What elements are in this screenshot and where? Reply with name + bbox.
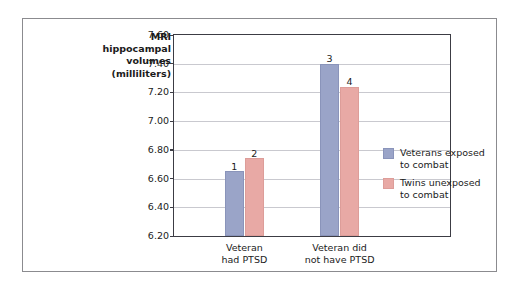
legend-item-veterans-exposed: Veterans exposed to combat — [383, 147, 501, 170]
bar-value-label: 3 — [327, 54, 333, 64]
gridline — [174, 92, 450, 93]
y-tick-label: 6.40 — [148, 203, 169, 213]
x-category-label-line: not have PTSD — [305, 254, 375, 265]
y-tick-mark — [170, 92, 174, 93]
gridline — [174, 207, 450, 208]
chart-legend: Veterans exposed to combat Twins unexpos… — [383, 147, 501, 207]
legend-label-line-2: to combat — [400, 159, 448, 170]
y-tick-label: 6.20 — [148, 231, 169, 241]
y-tick-label: 7.00 — [148, 116, 169, 126]
y-axis-title-line-4: (milliliters) — [63, 68, 171, 80]
legend-swatch-pink-icon — [383, 178, 394, 189]
y-tick-mark — [170, 121, 174, 122]
bar: 4 — [340, 87, 359, 236]
legend-label-line-2: to combat — [400, 189, 448, 200]
y-tick-mark — [170, 35, 174, 36]
x-category-label-line: Veteran — [226, 242, 263, 253]
bar-value-label: 2 — [251, 149, 257, 159]
bar: 2 — [245, 158, 264, 236]
y-axis-title-line-2: hippocampal — [63, 43, 171, 55]
bar-value-label: 4 — [347, 77, 353, 87]
y-tick-label: 7.40 — [148, 59, 169, 69]
legend-label-line-1: Twins unexposed — [400, 177, 481, 188]
legend-item-twins-unexposed: Twins unexposed to combat — [383, 177, 501, 200]
x-category-label-line: Veteran did — [312, 242, 367, 253]
y-tick-mark — [170, 236, 174, 237]
y-tick-label: 7.20 — [148, 88, 169, 98]
legend-label-veterans-exposed: Veterans exposed to combat — [400, 147, 485, 170]
x-category-label: Veteranhad PTSD — [221, 242, 267, 265]
y-tick-mark — [170, 63, 174, 64]
x-category-label-line: had PTSD — [221, 254, 267, 265]
y-tick-label: 6.60 — [148, 174, 169, 184]
y-tick-mark — [170, 207, 174, 208]
bar: 3 — [320, 64, 339, 236]
gridline — [174, 121, 450, 122]
y-tick-label: 6.80 — [148, 145, 169, 155]
x-category-label: Veteran didnot have PTSD — [305, 242, 375, 265]
bar: 1 — [225, 171, 244, 236]
legend-label-twins-unexposed: Twins unexposed to combat — [400, 177, 481, 200]
y-tick-label: 7.60 — [148, 30, 169, 40]
gridline — [174, 64, 450, 65]
legend-swatch-blue-icon — [383, 148, 394, 159]
legend-label-line-1: Veterans exposed — [400, 147, 485, 158]
y-tick-mark — [170, 149, 174, 150]
chart-figure: MRI hippocampal volumes (milliliters) 6.… — [22, 18, 497, 272]
bar-value-label: 1 — [231, 162, 237, 172]
y-tick-mark — [170, 178, 174, 179]
